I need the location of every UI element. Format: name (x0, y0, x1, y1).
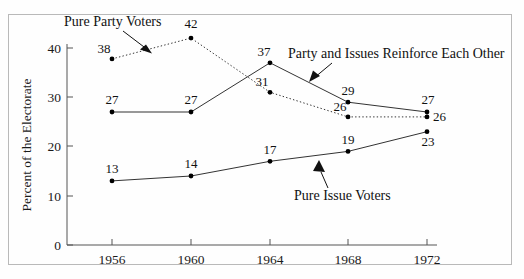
value-label: 19 (342, 132, 355, 147)
chart-figure: 40 30 20 10 0 1956 1960 1964 1968 1972 P… (0, 0, 524, 279)
value-label: 13 (106, 161, 119, 176)
data-point (268, 90, 273, 95)
data-point (110, 57, 115, 62)
value-label: 27 (106, 92, 120, 107)
y-tick-label-30: 30 (48, 90, 62, 105)
data-point (110, 179, 115, 184)
line-chart-canvas: 40 30 20 10 0 1956 1960 1964 1968 1972 P… (0, 0, 524, 279)
annotation-label: Pure Party Voters (64, 14, 161, 29)
value-label: 23 (422, 134, 435, 149)
x-tick-label-1972: 1972 (414, 252, 441, 267)
x-tick-label-1968: 1968 (335, 252, 362, 267)
y-axis (67, 44, 73, 245)
value-label: 37 (258, 44, 272, 59)
value-label: 31 (256, 74, 269, 89)
data-point (425, 115, 430, 120)
value-label: 14 (185, 156, 199, 171)
annotation-party-and-issues: Party and Issues Reinforce Each Other (288, 46, 505, 82)
data-point (425, 110, 430, 115)
annotation-label: Party and Issues Reinforce Each Other (288, 46, 505, 61)
value-label: 26 (334, 99, 348, 114)
x-tick-label-1956: 1956 (99, 252, 126, 267)
value-label: 42 (185, 16, 198, 31)
y-tick-label-0: 0 (54, 238, 61, 253)
y-axis-label: Percent of the Electorate (19, 78, 34, 211)
data-point (189, 174, 194, 179)
annotation-label: Pure Issue Voters (294, 188, 391, 203)
data-point (110, 110, 115, 115)
data-point (346, 100, 351, 105)
value-label: 26 (433, 109, 447, 124)
annotation-pure-issue-voters: Pure Issue Voters (294, 160, 391, 203)
y-tick-label-40: 40 (48, 41, 62, 56)
data-point (346, 115, 351, 120)
x-tick-label-1964: 1964 (257, 252, 284, 267)
data-point (189, 36, 194, 41)
y-tick-label-20: 20 (48, 139, 62, 154)
value-label: 29 (342, 83, 355, 98)
x-axis (67, 239, 437, 245)
arrow-head-icon (313, 160, 325, 172)
x-tick-label-1960: 1960 (178, 252, 205, 267)
annotation-pure-party-voters: Pure Party Voters (64, 14, 161, 54)
value-label: 38 (98, 41, 111, 56)
data-point (189, 110, 194, 115)
data-point (346, 149, 351, 154)
value-label: 27 (422, 92, 436, 107)
data-point (268, 159, 273, 164)
arrow-head-icon (309, 71, 320, 83)
series-pure-issue-voters: 13 14 17 19 23 (106, 129, 435, 183)
value-label: 17 (264, 142, 278, 157)
data-point (268, 60, 273, 65)
value-label: 27 (185, 92, 199, 107)
y-tick-label-10: 10 (48, 189, 62, 204)
